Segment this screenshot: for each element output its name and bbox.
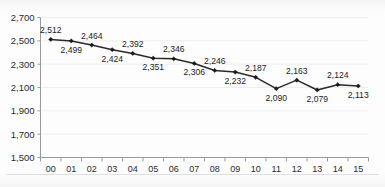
y-axis: 2,7002,5002,3002,1001,9001,7001,500: [11, 12, 41, 163]
y-tick-label: 2,100: [11, 82, 35, 93]
data-point-label: 2,424: [101, 54, 123, 64]
data-point-marker: [172, 57, 176, 61]
data-point-marker: [233, 70, 237, 74]
data-point-marker: [131, 51, 135, 55]
data-point-label: 2,499: [60, 45, 82, 55]
data-point-label: 2,512: [40, 25, 62, 35]
data-point-marker: [192, 61, 196, 65]
x-tick-label: 14: [333, 164, 343, 174]
y-tick-label: 2,300: [11, 59, 35, 70]
data-point-label: 2,079: [306, 94, 328, 104]
chart-canvas: 2,7002,5002,3002,1001,9001,7001,500 0001…: [0, 0, 385, 187]
data-point-marker: [213, 68, 217, 72]
line-chart: 2,7002,5002,3002,1001,9001,7001,500 0001…: [0, 0, 385, 187]
data-point-marker: [151, 56, 155, 60]
y-tick-label: 2,500: [11, 35, 35, 46]
x-tick-label: 02: [87, 164, 97, 174]
x-tick-label: 13: [312, 164, 322, 174]
x-tick-label: 15: [353, 164, 363, 174]
data-point-label: 2,113: [348, 90, 369, 100]
x-axis: 00010203040506070809101112131415: [41, 158, 369, 174]
x-tick-label: 05: [148, 164, 158, 174]
x-tick-label: 06: [169, 164, 179, 174]
data-point-label: 2,090: [265, 93, 287, 103]
y-tick-label: 1,500: [11, 152, 35, 163]
x-tick-label: 03: [107, 164, 117, 174]
data-point-label: 2,246: [204, 56, 226, 66]
data-point-marker: [90, 43, 94, 47]
x-tick-label: 08: [210, 164, 220, 174]
data-point-label: 2,124: [327, 70, 349, 80]
y-tick-label: 1,900: [11, 105, 35, 116]
data-point-label: 2,392: [122, 39, 144, 49]
x-tick-label: 10: [251, 164, 261, 174]
data-point-label: 2,187: [245, 63, 267, 73]
data-point-marker: [69, 39, 73, 43]
x-tick-label: 07: [189, 164, 199, 174]
data-point-label: 2,306: [183, 67, 205, 77]
x-tick-label: 12: [292, 164, 302, 174]
y-tick-label: 2,700: [11, 12, 35, 23]
data-point-label: 2,346: [163, 44, 185, 54]
x-tick-label: 00: [46, 164, 56, 174]
y-tick-label: 1,700: [11, 129, 35, 140]
data-point-label: 2,232: [224, 76, 246, 86]
data-point-label: 2,464: [81, 31, 103, 41]
data-point-label: 2,163: [286, 66, 308, 76]
data-point-marker: [336, 83, 340, 87]
data-point-label: 2,351: [142, 62, 164, 72]
x-tick-label: 11: [272, 164, 281, 174]
x-tick-label: 04: [128, 164, 138, 174]
data-point-marker: [110, 48, 114, 52]
x-tick-label: 09: [230, 164, 240, 174]
x-tick-label: 01: [66, 164, 76, 174]
